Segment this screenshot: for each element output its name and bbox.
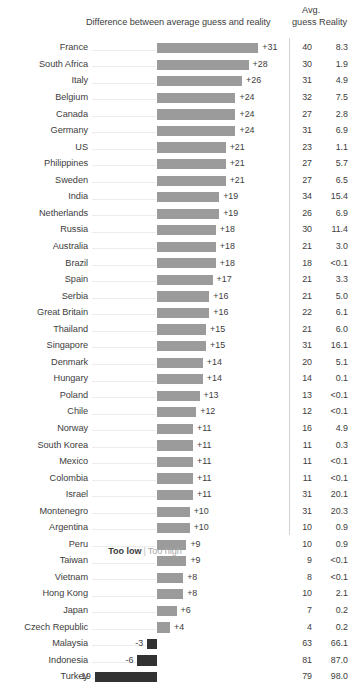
chart-row: Malaysia-36366.1 <box>0 636 354 653</box>
row-bar <box>157 507 190 517</box>
row-reality: <0.1 <box>318 406 348 416</box>
chart-row: Czech Republic+440.2 <box>0 619 354 636</box>
row-reality: 87.0 <box>318 655 348 665</box>
row-reality: 20.3 <box>318 506 348 516</box>
row-bar <box>157 573 183 583</box>
row-leader-line <box>92 215 156 216</box>
row-bar <box>157 159 226 169</box>
row-bar <box>157 192 219 202</box>
row-leader-line <box>92 513 156 514</box>
row-bar <box>157 473 193 483</box>
row-bar <box>157 225 216 235</box>
row-reality: 4.9 <box>318 75 348 85</box>
row-value-label: +10 <box>194 522 209 532</box>
row-bar <box>147 639 157 649</box>
row-reality: 15.4 <box>318 191 348 201</box>
row-avg-guess: 79 <box>292 671 312 681</box>
row-value-label: +12 <box>200 406 215 416</box>
row-avg-guess: 81 <box>292 655 312 665</box>
row-value-label: -3 <box>121 638 143 648</box>
chart-row: Japan+670.2 <box>0 603 354 620</box>
row-country-label: Thailand <box>0 324 88 334</box>
row-country-label: Netherlands <box>0 208 88 218</box>
row-reality: <0.1 <box>318 390 348 400</box>
row-leader-line <box>92 347 156 348</box>
chart-row: Singapore+153116.1 <box>0 338 354 355</box>
row-country-label: Hong Kong <box>0 588 88 598</box>
chart-row: Chile+1212<0.1 <box>0 404 354 421</box>
row-value-label: +21 <box>230 142 245 152</box>
row-reality: <0.1 <box>318 456 348 466</box>
row-value-label: +28 <box>253 59 268 69</box>
row-bar <box>157 308 209 318</box>
row-avg-guess: 10 <box>292 588 312 598</box>
row-reality: 1.1 <box>318 142 348 152</box>
row-value-label: +6 <box>181 605 191 615</box>
chart-row: Sweden+21276.5 <box>0 172 354 189</box>
row-reality: 6.5 <box>318 175 348 185</box>
row-value-label: -6 <box>111 655 133 665</box>
row-avg-guess: 30 <box>292 59 312 69</box>
row-avg-guess: 4 <box>292 622 312 632</box>
row-bar <box>157 341 206 351</box>
chart-row: Montenegro+103120.3 <box>0 503 354 520</box>
row-country-label: Taiwan <box>0 555 88 565</box>
row-leader-line <box>92 182 156 183</box>
row-avg-guess: 34 <box>292 191 312 201</box>
row-reality: 11.4 <box>318 224 348 234</box>
row-value-label: +9 <box>190 555 200 565</box>
row-value-label: +21 <box>230 158 245 168</box>
row-value-label: +4 <box>174 622 184 632</box>
row-bar <box>157 275 213 285</box>
row-reality: 5.0 <box>318 291 348 301</box>
row-value-label: +8 <box>187 572 197 582</box>
row-reality: 6.9 <box>318 208 348 218</box>
chart-row: South Korea+11110.3 <box>0 437 354 454</box>
row-avg-guess: 63 <box>292 638 312 648</box>
row-country-label: South Korea <box>0 440 88 450</box>
row-country-label: Sweden <box>0 175 88 185</box>
row-value-label: +13 <box>204 390 219 400</box>
row-value-label: -19 <box>69 671 91 681</box>
row-value-label: +18 <box>220 224 235 234</box>
chart-row: Germany+24316.9 <box>0 123 354 140</box>
row-country-label: Germany <box>0 125 88 135</box>
chart-row: Brazil+1818<0.1 <box>0 255 354 272</box>
row-avg-guess: 21 <box>292 241 312 251</box>
avg-guess-column-header: guess <box>292 17 317 27</box>
row-value-label: +15 <box>210 340 225 350</box>
row-country-label: France <box>0 42 88 52</box>
row-country-label: Czech Republic <box>0 622 88 632</box>
row-avg-guess: 31 <box>292 489 312 499</box>
row-leader-line <box>92 165 156 166</box>
row-country-label: Spain <box>0 274 88 284</box>
row-country-label: Australia <box>0 241 88 251</box>
row-bar <box>157 324 206 334</box>
row-country-label: Indonesia <box>0 655 88 665</box>
row-value-label: +10 <box>194 506 209 516</box>
row-leader-line <box>92 430 156 431</box>
row-leader-line <box>92 66 156 67</box>
row-avg-guess: 26 <box>292 208 312 218</box>
row-bar <box>157 76 242 86</box>
row-avg-guess: 21 <box>292 324 312 334</box>
row-leader-line <box>92 248 156 249</box>
row-avg-guess: 11 <box>292 456 312 466</box>
chart-row: Mexico+1111<0.1 <box>0 454 354 471</box>
row-leader-line <box>92 314 156 315</box>
row-country-label: Great Britain <box>0 307 88 317</box>
legend-too-high: Too high <box>148 546 182 556</box>
row-country-label: Montenegro <box>0 506 88 516</box>
chart-row: Colombia+1111<0.1 <box>0 470 354 487</box>
row-bar <box>157 457 193 467</box>
row-leader-line <box>92 529 156 530</box>
row-leader-line <box>92 480 156 481</box>
row-country-label: Japan <box>0 605 88 615</box>
row-avg-guess: 9 <box>292 555 312 565</box>
row-value-label: +11 <box>197 456 211 466</box>
row-avg-guess: 31 <box>292 340 312 350</box>
row-leader-line <box>92 132 156 133</box>
row-leader-line <box>92 265 156 266</box>
row-avg-guess: 11 <box>292 440 312 450</box>
